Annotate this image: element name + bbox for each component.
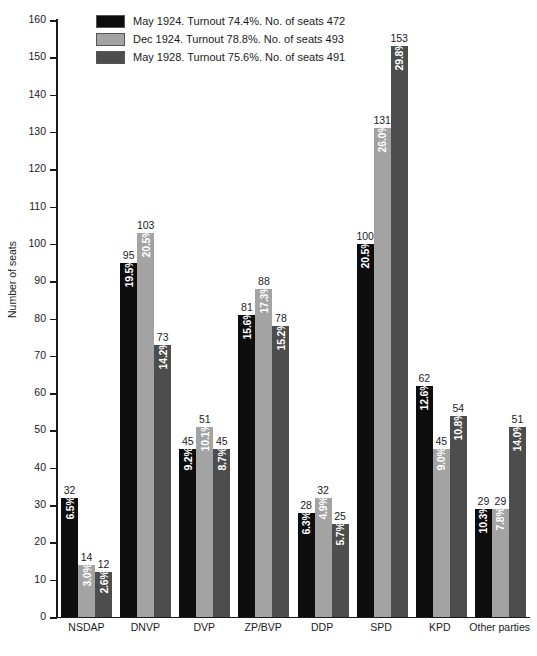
bar-slot: 326.5%	[61, 20, 78, 617]
y-axis-tick: 0	[50, 617, 57, 619]
bar-slot: 13126.0%	[374, 20, 391, 617]
x-axis-labels: NSDAPDNVPDVPZP/BVPDDPSPDKPDOther parties	[57, 620, 530, 634]
bar-slot: 2910.3%	[475, 20, 492, 617]
bar-percent-label: 5.7%	[334, 522, 346, 545]
bar-percent-label: 7.8%	[494, 507, 506, 530]
bar-slot: 458.7%	[213, 20, 230, 617]
bar[interactable]: 5110.1%	[196, 427, 213, 617]
y-axis-tick-label: 150	[28, 50, 46, 63]
x-axis-tick-label: DVP	[175, 620, 234, 634]
y-axis-tick-mark	[50, 580, 57, 582]
y-axis-tick: 80	[50, 319, 57, 321]
bar-value-label: 45	[216, 435, 228, 447]
bar[interactable]: 286.3%	[298, 513, 315, 617]
y-axis-tick-label: 10	[34, 573, 46, 586]
bar-slot: 5410.8%	[450, 20, 467, 617]
y-axis-tick-mark	[50, 542, 57, 544]
bar[interactable]: 458.7%	[213, 449, 230, 617]
y-axis-tick-mark	[50, 57, 57, 59]
bar-percent-label: 3.0%	[81, 563, 93, 586]
bar-value-label: 28	[300, 499, 312, 511]
bar-percent-label: 20.5%	[359, 239, 371, 268]
y-axis-tick-mark	[50, 207, 57, 209]
bar[interactable]: 8817.3%	[255, 289, 272, 617]
bar[interactable]: 459.2%	[179, 449, 196, 617]
y-axis-tick-mark	[50, 505, 57, 507]
bar-value-label: 14	[81, 551, 93, 563]
bar-slot: 9519.5%	[120, 20, 137, 617]
x-axis-tick-label: ZP/BVP	[234, 620, 293, 634]
y-axis-tick: 140	[50, 95, 57, 97]
bar-slot: 122.6%	[95, 20, 112, 617]
y-axis-tick: 150	[50, 57, 57, 59]
x-axis-tick-label: Other parties	[469, 620, 530, 634]
bar[interactable]: 122.6%	[95, 572, 112, 617]
bar-group: 8115.6%8817.3%7815.2%	[234, 20, 293, 617]
bar[interactable]: 10020.5%	[357, 244, 374, 617]
y-axis-tick-label: 50	[34, 423, 46, 436]
bar[interactable]: 9519.5%	[120, 263, 137, 617]
bar[interactable]: 10320.5%	[137, 233, 154, 617]
bar-percent-label: 12.6%	[418, 381, 430, 410]
bar[interactable]: 459.0%	[433, 449, 450, 617]
y-axis-tick-label: 30	[34, 498, 46, 511]
bar-percent-label: 14.2%	[157, 340, 169, 369]
y-axis-tick-mark	[50, 468, 57, 470]
bar-percent-label: 15.2%	[275, 322, 287, 351]
bar[interactable]: 255.7%	[332, 524, 349, 617]
bar-group: 286.3%324.9%255.7%	[294, 20, 353, 617]
y-axis-tick: 20	[50, 542, 57, 544]
y-axis-tick-label: 0	[40, 610, 46, 623]
bar[interactable]: 15329.8%	[391, 46, 408, 617]
bar-percent-label: 29.8%	[393, 42, 405, 71]
bar-percent-label: 9.2%	[182, 448, 194, 471]
bar-value-label: 25	[334, 510, 346, 522]
x-axis-tick-label: NSDAP	[57, 620, 116, 634]
bar-percent-label: 6.5%	[64, 496, 76, 519]
bar[interactable]: 143.0%	[78, 565, 95, 617]
y-axis-tick-mark	[50, 169, 57, 171]
bar[interactable]: 8115.6%	[238, 315, 255, 617]
bar-percent-label: 6.3%	[300, 511, 312, 534]
bar-percent-label: 10.8%	[452, 411, 464, 440]
bar-slot: 255.7%	[332, 20, 349, 617]
bar-slot: 8817.3%	[255, 20, 272, 617]
bar-group: 6212.6%459.0%5410.8%	[412, 20, 471, 617]
bar[interactable]: 13126.0%	[374, 128, 391, 617]
bar-value-label: 32	[317, 484, 329, 496]
bar-slot: 297.8%	[492, 20, 509, 617]
bar[interactable]: 2910.3%	[475, 509, 492, 617]
y-axis-tick-label: 40	[34, 461, 46, 474]
bar-percent-label: 14.0%	[511, 422, 523, 451]
y-axis-tick-mark	[50, 356, 57, 358]
bar-slot: 459.0%	[433, 20, 450, 617]
bar-group: 459.2%5110.1%458.7%	[175, 20, 234, 617]
x-axis-tick-label: DDP	[293, 620, 352, 634]
bar-value-label: 45	[435, 435, 447, 447]
bar[interactable]: 324.9%	[315, 498, 332, 617]
bar-group: 2910.3%297.8%5114.0%	[471, 20, 530, 617]
y-axis-tick-mark	[50, 319, 57, 321]
bar-slot: 7815.2%	[272, 20, 289, 617]
bar[interactable]: 7314.2%	[154, 345, 171, 617]
bar[interactable]: 5114.0%	[509, 427, 526, 617]
y-axis-tick-mark	[50, 132, 57, 134]
bar-slot: 324.9%	[315, 20, 332, 617]
y-axis-tick-mark	[50, 20, 57, 22]
bar[interactable]: 297.8%	[492, 509, 509, 617]
y-axis-tick-label: 130	[28, 125, 46, 138]
bar[interactable]: 5410.8%	[450, 416, 467, 617]
bar[interactable]: 7815.2%	[272, 326, 289, 617]
bar[interactable]: 6212.6%	[416, 386, 433, 617]
x-axis-tick-label: DNVP	[116, 620, 175, 634]
x-axis-tick-label: SPD	[352, 620, 411, 634]
bar-slot: 7314.2%	[154, 20, 171, 617]
bar[interactable]: 326.5%	[61, 498, 78, 617]
y-axis-tick-label: 80	[34, 312, 46, 325]
y-axis-title: Number of seats	[6, 241, 18, 318]
bar-percent-label: 20.5%	[140, 228, 152, 257]
bar-percent-label: 9.0%	[435, 448, 447, 471]
y-axis-tick-mark	[50, 617, 57, 619]
bar-groups: 326.5%143.0%122.6%9519.5%10320.5%7314.2%…	[57, 20, 530, 617]
y-axis-tick-label: 140	[28, 88, 46, 101]
